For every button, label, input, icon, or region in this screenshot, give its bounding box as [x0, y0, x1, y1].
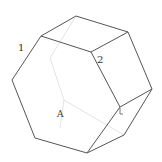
front-face-a [12, 36, 120, 153]
right-face [120, 32, 152, 107]
top-face [41, 16, 128, 52]
edge-label-2: 2 [97, 55, 103, 65]
hexagonal-prism-drawing [0, 0, 162, 162]
edge-label-1: 1 [18, 43, 24, 53]
corner-mark [120, 108, 123, 114]
lower-right-face [87, 89, 152, 153]
diagram-canvas: 1 2 A [0, 0, 162, 162]
face-label-a: A [57, 110, 64, 119]
